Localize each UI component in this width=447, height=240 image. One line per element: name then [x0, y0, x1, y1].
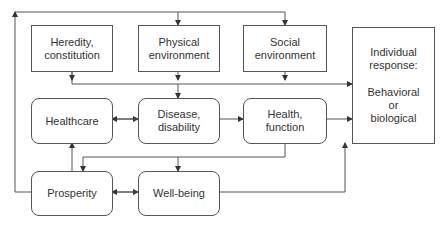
node-response-line4: or: [389, 99, 399, 112]
node-disease-disability: Disease, disability: [138, 98, 220, 144]
node-response-line1: Individual: [370, 46, 416, 59]
node-well-being: Well-being: [138, 171, 220, 216]
node-health-function: Health, function: [243, 98, 327, 144]
node-physical-line2: environment: [149, 49, 210, 62]
node-heredity-line2: constitution: [44, 49, 100, 62]
node-social-line1: Social: [270, 36, 300, 49]
node-response-line5: biological: [371, 112, 417, 125]
node-heredity: Heredity, constitution: [31, 25, 113, 72]
node-physical-environment: Physical environment: [138, 25, 220, 72]
node-healthcare: Healthcare: [31, 98, 113, 144]
node-disease-line1: Disease,: [158, 108, 201, 121]
node-wellbeing-line1: Well-being: [153, 187, 205, 200]
node-prosperity-line1: Prosperity: [47, 187, 97, 200]
node-response-line3: Behavioral: [368, 86, 420, 99]
node-health-line1: Health,: [268, 108, 303, 121]
node-individual-response: Individual response: Behavioral or biolo…: [352, 27, 435, 144]
node-heredity-line1: Heredity,: [50, 36, 93, 49]
node-health-line2: function: [266, 121, 305, 134]
node-social-environment: Social environment: [243, 25, 327, 72]
node-healthcare-line1: Healthcare: [45, 115, 98, 128]
node-physical-line1: Physical: [159, 36, 200, 49]
node-response-line2: response:: [369, 59, 417, 72]
node-disease-line2: disability: [158, 121, 200, 134]
node-prosperity: Prosperity: [31, 171, 113, 216]
node-social-line2: environment: [255, 49, 316, 62]
